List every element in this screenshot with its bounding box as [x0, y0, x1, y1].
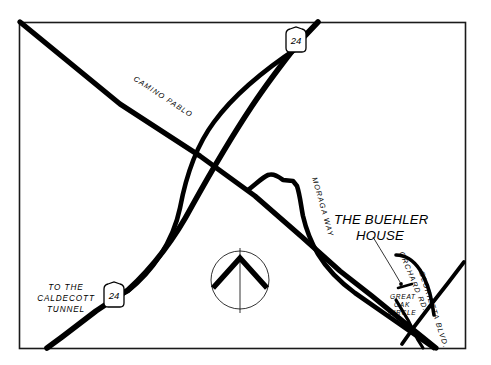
shield-highway-24-top[interactable]: 24 — [286, 27, 306, 52]
label-buehler-house-line1: THE BUEHLER — [334, 212, 429, 227]
shield-highway-24-bottom[interactable]: 24 — [104, 282, 124, 307]
label-moraga-way: MORAGA WAY — [310, 176, 336, 238]
label-camino-pablo: CAMINO PABLO — [132, 74, 195, 119]
label-great-oak-circle-line2: OAK — [394, 301, 410, 308]
north-arrow-compass — [211, 248, 269, 313]
shield-number-top: 24 — [290, 35, 302, 46]
map-canvas: 24 24 CAMINO PABLO MORAGA WAY ORCHARD RD… — [0, 0, 491, 365]
house-leader-line — [373, 237, 400, 282]
label-great-oak-circle-line1: GREAT — [390, 293, 416, 300]
label-great-oak-circle-line3: CIRCLE — [388, 309, 416, 316]
location-map: 24 24 CAMINO PABLO MORAGA WAY ORCHARD RD… — [0, 0, 491, 365]
house-location-dot — [399, 282, 403, 286]
shield-number-bottom: 24 — [108, 290, 120, 301]
label-caldecott-line2: CALDECOTT — [37, 294, 95, 303]
label-caldecott-line1: TO THE — [48, 283, 83, 292]
label-buehler-house-line2: HOUSE — [356, 228, 404, 243]
label-caldecott-line3: TUNNEL — [47, 305, 85, 314]
